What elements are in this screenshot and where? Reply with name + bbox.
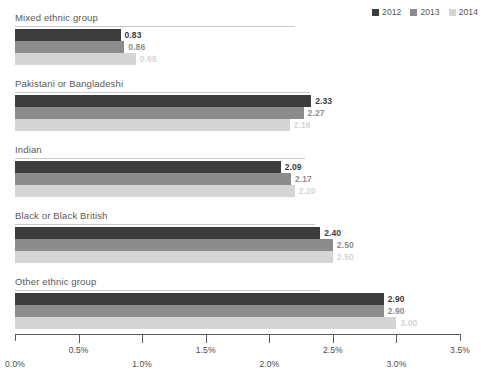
- plot-area: Mixed ethnic group0.830.860.95Pakistani …: [0, 0, 486, 330]
- bar-2013[interactable]: [15, 305, 384, 317]
- bar-2012[interactable]: [15, 227, 320, 239]
- bar-value-label: 2.50: [337, 253, 354, 262]
- x-axis-tick: [142, 334, 143, 343]
- bar-row: 2.09: [15, 161, 486, 173]
- bar-value-label: 2.33: [315, 97, 332, 106]
- bar-row: 0.83: [15, 29, 486, 41]
- bar-group-divider: [15, 158, 305, 159]
- x-axis-tick-label: 2.0%: [259, 360, 279, 369]
- bar-value-label: 2.27: [308, 109, 325, 118]
- bar-2013[interactable]: [15, 107, 304, 119]
- bar-row: 2.17: [15, 173, 486, 185]
- x-axis-tick-label: 0.0%: [5, 360, 25, 369]
- bar-group-bars: 2.402.502.50: [0, 227, 486, 263]
- bar-2014[interactable]: [15, 185, 295, 197]
- bar-group-bars: 2.092.172.20: [0, 161, 486, 197]
- bar-value-label: 2.90: [388, 295, 405, 304]
- bar-group-divider: [15, 224, 315, 225]
- bar-value-label: 2.90: [388, 307, 405, 316]
- bar-2013[interactable]: [15, 239, 333, 251]
- bar-group-title: Indian: [15, 144, 42, 156]
- x-axis-line: [15, 334, 460, 335]
- bar-2012[interactable]: [15, 29, 121, 41]
- bar-row: 2.50: [15, 239, 486, 251]
- bar-value-label: 3.00: [400, 319, 417, 328]
- bar-2014[interactable]: [15, 317, 396, 329]
- bar-group-divider: [15, 26, 295, 27]
- bar-value-label: 2.40: [324, 229, 341, 238]
- bar-row: 2.27: [15, 107, 486, 119]
- x-axis-tick-label: 3.5%: [450, 346, 470, 355]
- bar-value-label: 2.20: [299, 187, 316, 196]
- x-axis-tick-label: 2.5%: [323, 346, 343, 355]
- x-axis-tick: [15, 334, 16, 341]
- bar-row: 0.86: [15, 41, 486, 53]
- bar-value-label: 2.50: [337, 241, 354, 250]
- bar-group-title: Other ethnic group: [15, 276, 96, 288]
- bar-2012[interactable]: [15, 161, 281, 173]
- x-axis-tick: [269, 334, 270, 343]
- bar-group-title: Pakistani or Bangladeshi: [15, 78, 123, 90]
- bar-2013[interactable]: [15, 41, 124, 53]
- bar-value-label: 2.09: [285, 163, 302, 172]
- x-axis-tick-label: 1.0%: [132, 360, 152, 369]
- bar-row: 0.95: [15, 53, 486, 65]
- x-axis-tick-label: 3.0%: [387, 360, 407, 369]
- x-axis-tick: [206, 334, 207, 343]
- bar-row: 2.50: [15, 251, 486, 263]
- bar-group-divider: [15, 92, 310, 93]
- bar-row: 2.40: [15, 227, 486, 239]
- bar-chart: 201220132014 Mixed ethnic group0.830.860…: [0, 0, 486, 372]
- x-axis-tick: [460, 334, 461, 341]
- bar-group: Indian2.092.172.20: [0, 144, 486, 202]
- bar-value-label: 2.17: [295, 175, 312, 184]
- bar-group: Black or Black British2.402.502.50: [0, 210, 486, 268]
- bar-group-title: Black or Black British: [15, 210, 108, 222]
- bar-2012[interactable]: [15, 293, 384, 305]
- x-axis-tick-label: 0.5%: [69, 346, 89, 355]
- bar-2014[interactable]: [15, 53, 136, 65]
- x-axis-tick-label: 1.5%: [196, 346, 216, 355]
- bar-row: 2.90: [15, 293, 486, 305]
- bar-2012[interactable]: [15, 95, 311, 107]
- bar-row: 2.20: [15, 185, 486, 197]
- bar-2014[interactable]: [15, 251, 333, 263]
- bar-group: Other ethnic group2.902.903.00: [0, 276, 486, 334]
- x-axis-tick: [333, 334, 334, 343]
- bar-group-bars: 0.830.860.95: [0, 29, 486, 65]
- bar-value-label: 2.16: [294, 121, 311, 130]
- bar-group-bars: 2.332.272.16: [0, 95, 486, 131]
- bar-value-label: 0.95: [140, 55, 157, 64]
- bar-group: Mixed ethnic group0.830.860.95: [0, 12, 486, 70]
- bar-row: 2.90: [15, 305, 486, 317]
- bar-2013[interactable]: [15, 173, 291, 185]
- bar-2014[interactable]: [15, 119, 290, 131]
- x-axis-tick: [396, 334, 397, 343]
- bar-group-title: Mixed ethnic group: [15, 12, 98, 24]
- bar-row: 2.16: [15, 119, 486, 131]
- bar-group: Pakistani or Bangladeshi2.332.272.16: [0, 78, 486, 136]
- x-axis-tick: [79, 334, 80, 343]
- bar-value-label: 0.83: [125, 31, 142, 40]
- bar-group-bars: 2.902.903.00: [0, 293, 486, 329]
- bar-group-divider: [15, 290, 320, 291]
- bar-row: 2.33: [15, 95, 486, 107]
- bar-row: 3.00: [15, 317, 486, 329]
- bar-value-label: 0.86: [128, 43, 145, 52]
- x-axis: 0.0%0.5%1.0%1.5%2.0%2.5%3.0%3.5%: [0, 334, 486, 372]
